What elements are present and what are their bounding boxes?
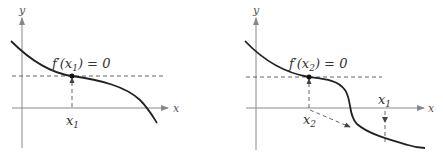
- left-y-label: y: [18, 4, 26, 17]
- right-critical-point: [307, 75, 312, 80]
- right-x-label: x: [428, 102, 435, 115]
- right-x1-arrow: [382, 117, 388, 123]
- right-annotation: f′(x2) = 0: [288, 56, 347, 73]
- left-curve: [11, 41, 157, 123]
- newton-method-failure-diagram: y x f′(x1) = 0 x1 y x f′(x2) = 0 x2: [0, 0, 443, 156]
- right-graph: y x f′(x2) = 0 x2 x1: [245, 4, 435, 150]
- right-x1-label: x1: [378, 92, 391, 109]
- left-graph: y x f′(x1) = 0 x1: [11, 4, 180, 148]
- right-x2-label: x2: [303, 112, 316, 129]
- left-x1-label: x1: [66, 113, 79, 130]
- left-x-label: x: [173, 102, 180, 115]
- left-critical-point: [70, 74, 75, 79]
- right-y-label: y: [252, 4, 260, 17]
- left-annotation: f′(x1) = 0: [51, 56, 110, 73]
